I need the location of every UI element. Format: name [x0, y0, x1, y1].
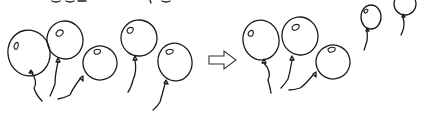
- balloon-icon: [119, 18, 160, 92]
- balloon-icon: [394, 0, 416, 35]
- clipped-top-marks: [52, 0, 170, 3]
- balloon-group-flying-away: [361, 0, 416, 50]
- balloon-group-left: [4, 18, 195, 110]
- balloon-illustration: balloons before balloons after: [0, 0, 427, 120]
- balloon-icon: [240, 17, 282, 93]
- balloon-icon: [361, 5, 381, 50]
- illustration-svg: [0, 0, 427, 120]
- right-arrow-icon: [209, 51, 236, 69]
- balloon-icon: [153, 40, 195, 110]
- balloon-icon: [58, 41, 122, 99]
- balloon-icon: [45, 19, 86, 96]
- balloon-icon: [280, 15, 321, 88]
- balloon-group-remaining: [240, 15, 355, 93]
- balloon-icon: [289, 40, 355, 90]
